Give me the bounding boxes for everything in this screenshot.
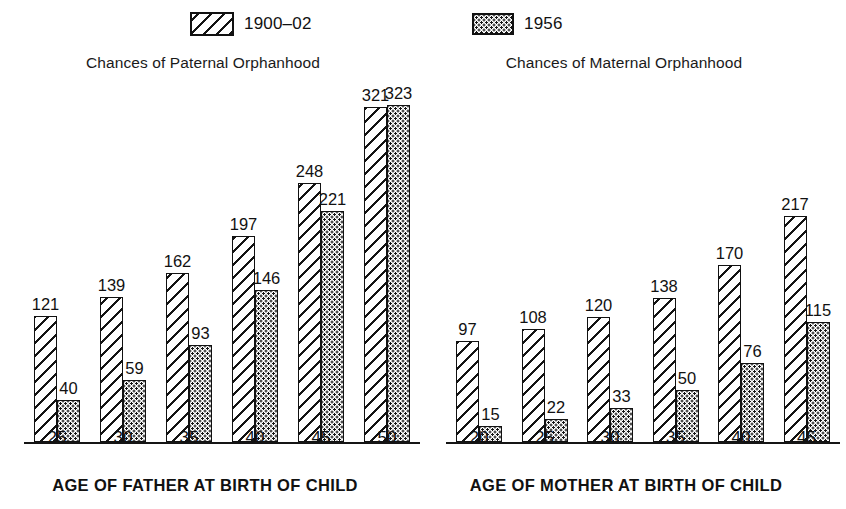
x-tick-label: 30 (580, 428, 640, 448)
x-tick-label: 25 (515, 428, 575, 448)
bar-value-label: 146 (237, 269, 297, 288)
bar-value-label: 221 (303, 190, 363, 209)
x-tick-label: 40 (225, 428, 285, 448)
legend-label: 1900–02 (244, 14, 312, 34)
bar-1900-02 (232, 236, 255, 442)
bar-1900-02 (456, 341, 479, 442)
bar-1900-02 (784, 216, 807, 442)
legend-swatch-hatch-icon (190, 12, 234, 36)
bar-1900-02 (522, 329, 545, 442)
bar-group: 12140 (34, 70, 80, 442)
bar-value-label: 76 (723, 342, 783, 361)
bar-1900-02 (587, 317, 610, 442)
legend-swatch-dots-icon (472, 13, 514, 35)
x-tick-label: 20 (449, 428, 509, 448)
bar-group: 10822 (522, 70, 568, 442)
bar-group: 197146 (232, 70, 278, 442)
plot-area-maternal: 971510822120331385017076217115 (420, 70, 846, 444)
bar-value-label: 50 (657, 369, 717, 388)
chart-panel-paternal: Chances of Paternal Orphanhood 121401395… (0, 46, 426, 509)
legend-item-1956: 1956 (472, 13, 563, 35)
bar-value-label: 170 (700, 244, 760, 263)
chart-legend: 1900–02 1956 (0, 12, 846, 42)
legend-item-1900-02: 1900–02 (190, 12, 312, 36)
chart-panel-maternal: Chances of Maternal Orphanhood 971510822… (420, 46, 846, 509)
bar-value-label: 97 (438, 320, 498, 339)
bar-value-label: 138 (634, 277, 694, 296)
bar-value-label: 33 (592, 387, 652, 406)
bar-value-label: 162 (148, 252, 208, 271)
bar-value-label: 93 (171, 324, 231, 343)
x-tick-label: 50 (357, 428, 417, 448)
bar-value-label: 108 (503, 308, 563, 327)
x-axis-title: AGE OF MOTHER AT BIRTH OF CHILD (420, 476, 846, 495)
x-axis-title: AGE OF FATHER AT BIRTH OF CHILD (0, 476, 426, 495)
bar-group: 13959 (100, 70, 146, 442)
bar-value-label: 22 (526, 398, 586, 417)
bar-value-label: 197 (214, 215, 274, 234)
plot-area-paternal: 121401395916293197146248221321323 (0, 70, 426, 444)
x-tick-label: 25 (27, 428, 87, 448)
bar-1956 (807, 322, 830, 442)
bar-value-label: 40 (39, 379, 99, 398)
bar-value-label: 121 (16, 295, 76, 314)
x-tick-label: 35 (159, 428, 219, 448)
bar-1956 (387, 105, 410, 442)
bar-group: 321323 (364, 70, 410, 442)
x-tick-label: 35 (646, 428, 706, 448)
bar-value-label: 139 (82, 276, 142, 295)
bar-1956 (321, 211, 344, 442)
bar-value-label: 115 (788, 301, 846, 320)
bar-group: 9715 (456, 70, 502, 442)
x-tick-label: 30 (93, 428, 153, 448)
x-tick-label: 40 (711, 428, 771, 448)
bar-group: 17076 (718, 70, 764, 442)
bar-1956 (255, 290, 278, 442)
bar-1900-02 (364, 107, 387, 442)
legend-label: 1956 (524, 14, 563, 34)
bar-value-label: 120 (569, 296, 629, 315)
bar-group: 248221 (298, 70, 344, 442)
bar-value-label: 217 (765, 195, 825, 214)
x-tick-label: 45 (777, 428, 837, 448)
bar-group: 12033 (587, 70, 633, 442)
bar-1900-02 (166, 273, 189, 442)
bar-value-label: 15 (461, 405, 521, 424)
x-tick-label: 45 (291, 428, 351, 448)
bar-value-label: 248 (280, 162, 340, 181)
bar-group: 13850 (653, 70, 699, 442)
bar-value-label: 59 (105, 359, 165, 378)
bar-group: 16293 (166, 70, 212, 442)
bar-group: 217115 (784, 70, 830, 442)
bar-1900-02 (298, 183, 321, 442)
